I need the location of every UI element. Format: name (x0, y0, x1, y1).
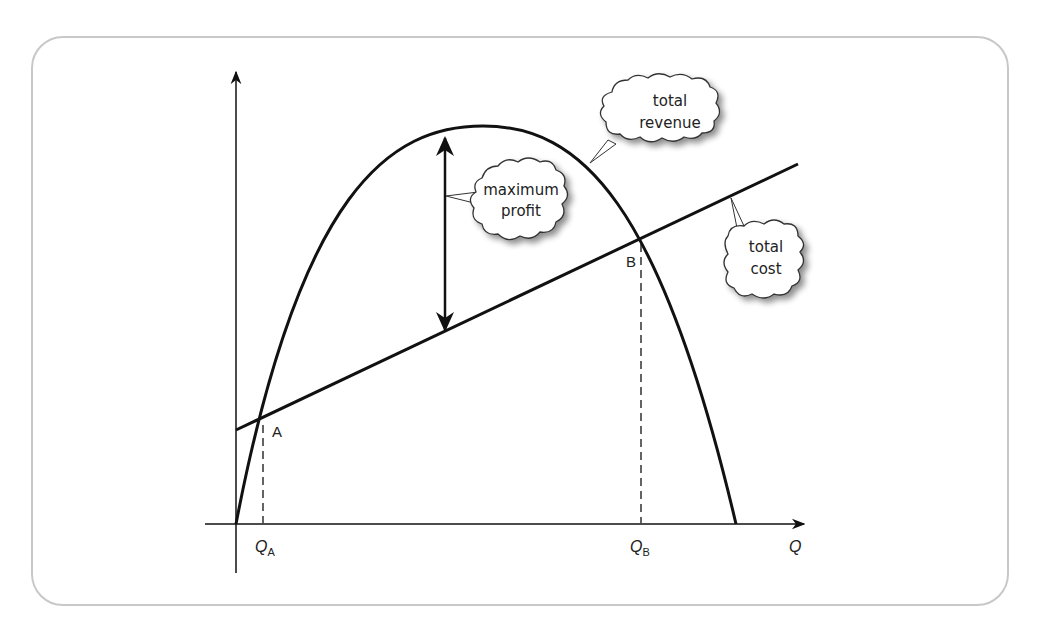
x-axis-label: Q (789, 538, 801, 555)
max-profit-label-line2: profit (501, 202, 541, 220)
profit-diagram: maximum profit total revenue total cost … (0, 0, 1039, 632)
qa-tick-label: QA (255, 538, 275, 558)
max-profit-label-line1: maximum (483, 181, 559, 199)
point-a-label: A (272, 423, 282, 440)
qb-tick-label: QB (630, 538, 650, 558)
point-b-label: B (626, 253, 636, 270)
total-revenue-label-line2: revenue (639, 114, 700, 132)
total-cost-callout (724, 220, 804, 298)
total-cost-label-line1: total (749, 238, 783, 256)
total-cost-pointer (731, 198, 744, 228)
total-revenue-label-line1: total (653, 92, 687, 110)
total-cost-label-line2: cost (750, 260, 781, 278)
total-revenue-pointer (590, 140, 616, 163)
